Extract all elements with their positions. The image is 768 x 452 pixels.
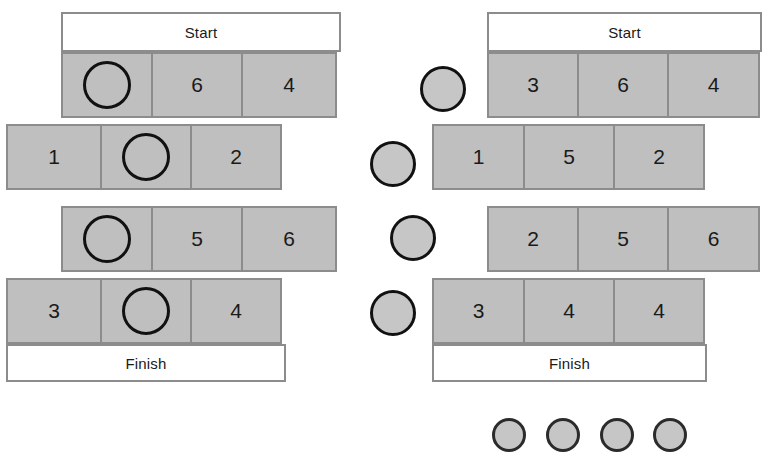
right-board-cell-r4c2-value: 4 xyxy=(563,299,575,323)
right-board-cell-r2c2[interactable]: 5 xyxy=(523,124,615,190)
right-board-cell-r1c2-value: 6 xyxy=(617,73,629,97)
game-token-filled-4[interactable] xyxy=(370,290,416,336)
right-board-start-bar: Start xyxy=(487,12,762,52)
right-board-cell-r1c2[interactable]: 6 xyxy=(577,52,669,118)
right-board-cell-r2c3-value: 2 xyxy=(653,145,665,169)
right-board-cell-r2c2-value: 5 xyxy=(563,145,575,169)
right-board-row-4: 3 4 4 xyxy=(432,278,705,344)
right-board-row-3: 2 5 6 xyxy=(487,206,760,272)
right-board-cell-r2c1[interactable]: 1 xyxy=(432,124,525,190)
right-board: Start 3 6 4 1 5 2 xyxy=(0,0,768,390)
game-token-filled-3[interactable] xyxy=(390,215,436,261)
right-board-cell-r1c3[interactable]: 4 xyxy=(667,52,760,118)
edge-stub-2 xyxy=(546,418,580,452)
edge-stub-3 xyxy=(600,418,634,452)
right-board-cell-r3c3[interactable]: 6 xyxy=(667,206,760,272)
right-board-cell-r4c1-value: 3 xyxy=(473,299,485,323)
right-board-cell-r3c2-value: 5 xyxy=(617,227,629,251)
game-token-filled-2[interactable] xyxy=(370,141,416,187)
right-board-cell-r3c1-value: 2 xyxy=(527,227,539,251)
right-board-start-label: Start xyxy=(608,24,641,41)
right-board-cell-r2c1-value: 1 xyxy=(473,145,485,169)
right-board-cell-r3c3-value: 6 xyxy=(708,227,720,251)
right-board-finish-bar: Finish xyxy=(432,344,707,382)
right-board-cell-r3c1[interactable]: 2 xyxy=(487,206,579,272)
right-board-cell-r4c3-value: 4 xyxy=(653,299,665,323)
edge-stub-4 xyxy=(653,418,687,452)
edge-stub-1 xyxy=(492,418,526,452)
right-board-finish-label: Finish xyxy=(549,355,590,372)
right-board-cell-r1c1-value: 3 xyxy=(527,73,539,97)
right-board-cell-r3c2[interactable]: 5 xyxy=(577,206,669,272)
right-board-cell-r4c2[interactable]: 4 xyxy=(523,278,615,344)
right-board-row-1: 3 6 4 xyxy=(487,52,760,118)
right-board-cell-r2c3[interactable]: 2 xyxy=(613,124,705,190)
right-board-cell-r4c1[interactable]: 3 xyxy=(432,278,525,344)
right-board-cell-r1c1[interactable]: 3 xyxy=(487,52,579,118)
game-token-filled-1[interactable] xyxy=(420,66,466,112)
right-board-cell-r4c3[interactable]: 4 xyxy=(613,278,705,344)
right-board-cell-r1c3-value: 4 xyxy=(708,73,720,97)
right-board-row-2: 1 5 2 xyxy=(432,124,705,190)
